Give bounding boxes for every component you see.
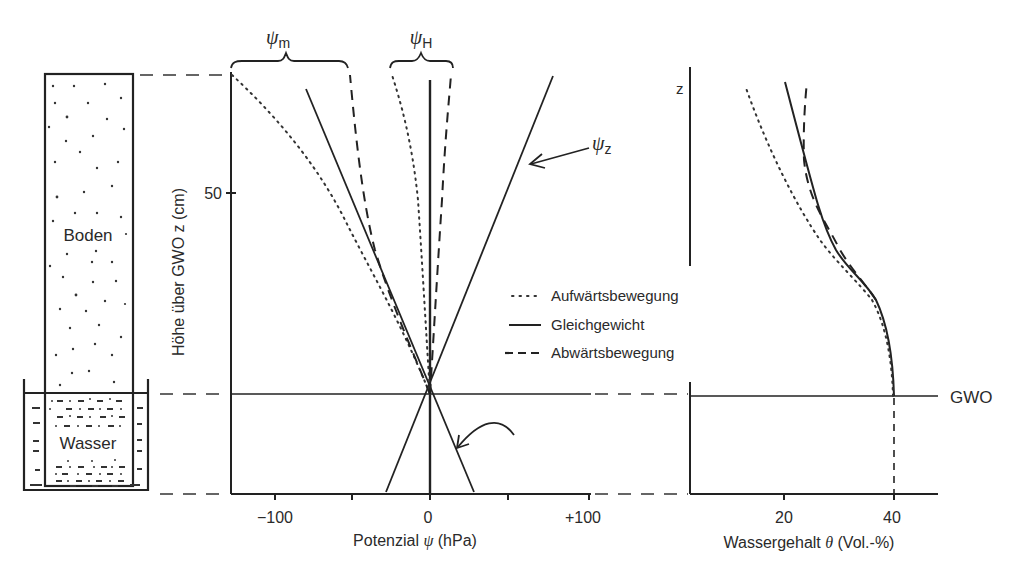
psi-m-upward bbox=[232, 75, 430, 394]
water-content-axes bbox=[690, 67, 938, 500]
theta-upward bbox=[746, 88, 893, 396]
legend-label-upward: Aufwärtsbewegung bbox=[551, 287, 679, 304]
curved-arrow bbox=[457, 423, 514, 448]
gwo-label: GWO bbox=[950, 388, 993, 407]
legend: Aufwärtsbewegung Gleichgewicht Abwärtsbe… bbox=[505, 287, 679, 361]
z-axis-label: z bbox=[676, 80, 684, 97]
psi-m-label: ψm bbox=[266, 26, 290, 51]
psi-h-downward bbox=[430, 75, 451, 394]
psi-z-line bbox=[386, 76, 553, 492]
legend-label-downward: Abwärtsbewegung bbox=[551, 344, 674, 361]
y-axis-title: Höhe über GWO z (cm) bbox=[170, 188, 187, 356]
psi-m-equilibrium bbox=[306, 89, 474, 492]
water-content-chart: z GWO 20 40 Wassergehalt θ (Vol.-%) bbox=[676, 67, 993, 551]
psi-z-arrow bbox=[530, 148, 589, 168]
legend-label-equilibrium: Gleichgewicht bbox=[551, 316, 645, 333]
x-tick-40: 40 bbox=[883, 509, 901, 526]
x-axis-title: Potenzial ψ (hPa) bbox=[353, 532, 477, 550]
x-tick-plus-100: +100 bbox=[565, 509, 601, 526]
guide-lines bbox=[140, 75, 688, 494]
x-tick-0: 0 bbox=[424, 509, 433, 526]
x-tick-20: 20 bbox=[775, 509, 793, 526]
water-content-axis-title: Wassergehalt θ (Vol.-%) bbox=[724, 534, 895, 551]
psi-m-brace bbox=[231, 53, 348, 68]
capillary-rise-diagram: Boden Wasser 50 −100 0 +100 Potenzia bbox=[0, 0, 1026, 578]
soil-column bbox=[24, 74, 148, 490]
x-tick-minus-100: −100 bbox=[257, 509, 293, 526]
potential-chart: 50 −100 0 +100 Potenzial ψ (hPa) Höhe üb… bbox=[170, 26, 679, 550]
y-tick-50: 50 bbox=[204, 185, 222, 202]
psi-h-label: ψH bbox=[410, 26, 433, 51]
psi-m-downward bbox=[350, 75, 430, 394]
psi-h-brace bbox=[390, 53, 453, 68]
soil-label: Boden bbox=[63, 226, 112, 245]
theta-equilibrium bbox=[785, 82, 894, 396]
psi-z-label: ψz bbox=[592, 132, 611, 157]
water-label: Wasser bbox=[60, 434, 117, 453]
